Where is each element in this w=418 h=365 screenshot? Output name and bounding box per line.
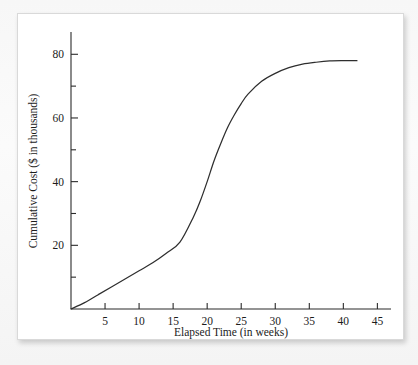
x-axis-ticks: 51015202530354045 [102,303,383,327]
page-background: 20406080 51015202530354045 Elapsed Time … [0,0,418,365]
y-axis-title: Cumulative Cost ($ in thousands) [27,94,40,249]
y-axis-ticks: 20406080 [53,48,79,277]
axes [71,32,391,309]
x-tick-label: 40 [338,315,350,327]
y-tick-label: 60 [53,112,65,124]
figure-panel: 20406080 51015202530354045 Elapsed Time … [17,13,404,340]
x-tick-label: 10 [133,315,145,327]
x-tick-label: 45 [372,315,384,327]
y-tick-label: 20 [53,239,65,251]
y-tick-label: 80 [53,48,65,60]
cut-off-caption [14,352,234,364]
x-tick-label: 5 [102,315,108,327]
y-tick-label: 40 [53,176,65,188]
x-axis-title: Elapsed Time (in weeks) [174,326,288,339]
x-tick-label: 35 [304,315,316,327]
cumulative-cost-curve [71,61,357,309]
line-chart: 20406080 51015202530354045 Elapsed Time … [18,14,403,339]
